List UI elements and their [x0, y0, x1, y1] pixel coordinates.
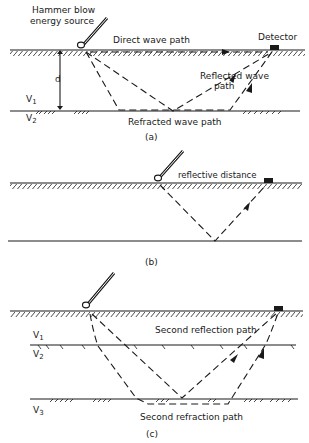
second-refraction-label: Second refraction path — [140, 412, 243, 422]
v2-label: V2 — [33, 349, 44, 361]
reflected-label-line1: Reflected wave — [200, 71, 269, 81]
caption-b: (b) — [145, 257, 158, 267]
ground-hatching — [10, 312, 303, 317]
caption-a: (a) — [145, 132, 158, 142]
direct-wave-label: Direct wave path — [113, 35, 190, 45]
second-reflection-label: Second reflection path — [155, 325, 257, 335]
seismic-diagram: Hammer blow energy source Direct wave pa… — [0, 0, 309, 443]
detector-icon — [274, 306, 283, 311]
detector-label: Detector — [258, 32, 298, 42]
reflected-wave-path — [86, 52, 272, 111]
panel-b: reflective distance (b) — [8, 151, 302, 267]
source-label-line2: energy source — [30, 16, 95, 26]
hammer-icon — [83, 273, 115, 308]
v2-label: V2 — [26, 113, 37, 125]
refracted-label: Refracted wave path — [128, 117, 221, 127]
source-label-line1: Hammer blow — [32, 5, 95, 15]
depth-label: d — [55, 74, 61, 84]
interface-hatching — [38, 345, 294, 349]
caption-c: (c) — [146, 429, 158, 439]
reflected-wave-path — [160, 185, 266, 241]
reflective-distance-label: reflective distance — [178, 170, 256, 180]
panel-a: Hammer blow energy source Direct wave pa… — [10, 5, 305, 142]
detector-icon — [270, 45, 279, 50]
panel-c: V1 Second reflection path V2 V3 Second r… — [10, 273, 303, 439]
v3-label: V3 — [33, 405, 44, 417]
reflected-label-line2: path — [214, 81, 234, 91]
refracted-wave-path — [86, 52, 272, 110]
detector-icon — [264, 178, 273, 183]
v1-label: V1 — [26, 94, 37, 106]
ground-hatching — [10, 184, 302, 189]
v1-label: V1 — [33, 330, 44, 342]
